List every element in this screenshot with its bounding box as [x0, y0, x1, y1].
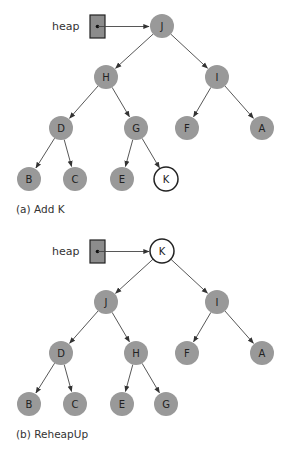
tree-edge-arrow — [64, 365, 71, 392]
tree-node-B: B — [17, 392, 41, 416]
tree-edge-arrow — [70, 311, 98, 343]
node-label: J — [160, 21, 164, 32]
tree-edge-arrow — [112, 312, 129, 341]
node-label: E — [119, 399, 125, 410]
tree-node-E: E — [110, 392, 134, 416]
node-label: H — [132, 348, 140, 359]
tree-edge-arrow — [194, 312, 211, 341]
node-label: B — [26, 399, 33, 410]
tree-node-A: A — [250, 116, 274, 140]
tree-edge-arrow — [142, 138, 159, 167]
node-label: C — [72, 174, 79, 185]
tree-edge-arrow — [116, 259, 154, 293]
diagram-caption: (a) Add K — [16, 203, 66, 215]
node-label: F — [184, 123, 190, 134]
node-label: G — [162, 399, 170, 410]
node-label: G — [132, 123, 140, 134]
node-label: B — [26, 174, 33, 185]
tree-edge-arrow — [125, 140, 132, 167]
node-label: K — [163, 174, 170, 185]
tree-node-B: B — [17, 167, 41, 191]
tree-edge-arrow — [171, 34, 208, 68]
node-label: D — [57, 123, 65, 134]
tree-node-F: F — [175, 116, 199, 140]
node-label: E — [119, 174, 125, 185]
tree-edge-arrow — [225, 86, 253, 118]
node-label: H — [102, 72, 110, 83]
tree-node-E: E — [110, 167, 134, 191]
node-label: D — [57, 348, 65, 359]
tree-edge-arrow — [70, 86, 98, 118]
tree-node-D: D — [49, 116, 73, 140]
tree-edge-arrow — [171, 259, 208, 293]
diagram-caption: (b) ReheapUp — [16, 428, 88, 440]
diagram-b: heapKJIDHFABCEG(b) ReheapUp — [16, 239, 274, 440]
node-label: I — [216, 72, 219, 83]
tree-node-K: K — [150, 239, 174, 263]
tree-node-I: I — [205, 290, 229, 314]
tree-node-G: G — [154, 392, 178, 416]
tree-edge-arrow — [142, 363, 159, 392]
tree-node-J: J — [94, 290, 118, 314]
heap-diagram-canvas: heapJHIDGFABCEK(a) Add KheapKJIDHFABCEG(… — [0, 0, 290, 453]
tree-edge-arrow — [116, 34, 154, 68]
node-label: J — [104, 297, 108, 308]
heap-label: heap — [52, 20, 79, 33]
tree-edge-arrow — [194, 87, 211, 116]
tree-edge-arrow — [112, 87, 129, 116]
tree-node-H: H — [94, 65, 118, 89]
tree-edge-arrow — [125, 365, 132, 392]
tree-node-D: D — [49, 341, 73, 365]
node-label: F — [184, 348, 190, 359]
node-label: A — [259, 348, 266, 359]
tree-node-K: K — [154, 167, 178, 191]
tree-node-I: I — [205, 65, 229, 89]
node-label: K — [159, 246, 166, 257]
tree-node-C: C — [63, 392, 87, 416]
tree-edge-arrow — [225, 311, 253, 343]
tree-edge-arrow — [36, 138, 55, 168]
tree-node-G: G — [124, 116, 148, 140]
node-label: C — [72, 399, 79, 410]
tree-node-H: H — [124, 341, 148, 365]
tree-node-J: J — [150, 14, 174, 38]
node-label: I — [216, 297, 219, 308]
diagram-a: heapJHIDGFABCEK(a) Add K — [16, 14, 274, 215]
heap-label: heap — [52, 245, 79, 258]
node-label: A — [259, 123, 266, 134]
tree-edge-arrow — [64, 140, 71, 167]
tree-edge-arrow — [36, 363, 55, 393]
tree-node-C: C — [63, 167, 87, 191]
tree-node-A: A — [250, 341, 274, 365]
tree-node-F: F — [175, 341, 199, 365]
